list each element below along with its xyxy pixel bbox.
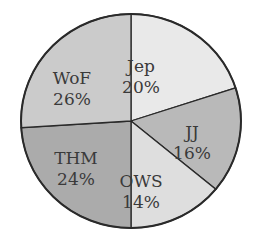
slice-percent: 14% (122, 192, 160, 212)
slice-percent: 24% (57, 169, 95, 189)
slice-label: OWS (119, 171, 162, 191)
slice-percent: 20% (122, 77, 160, 97)
slice-percent: 16% (173, 143, 211, 163)
slice-label: Jep (125, 56, 155, 76)
slice-label: WoF (53, 68, 92, 88)
slice-label: JJ (183, 122, 199, 142)
pie-chart: Jep20%JJ16%OWS14%THM24%WoF26% (0, 0, 258, 241)
slice-label: THM (54, 148, 98, 168)
slice-percent: 26% (53, 89, 91, 109)
